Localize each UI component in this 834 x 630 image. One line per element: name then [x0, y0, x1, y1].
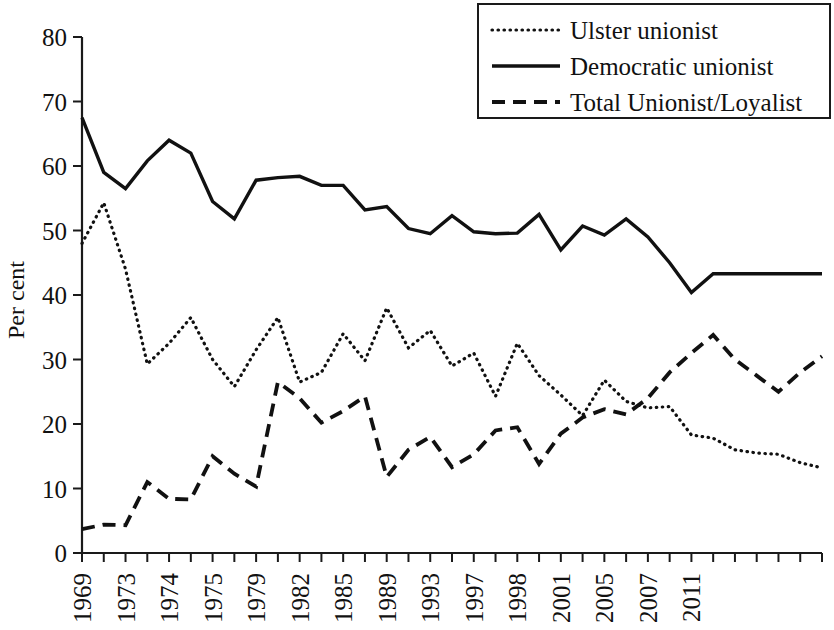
x-tick-label: 1982: [287, 573, 314, 623]
x-tick-label: 2011: [678, 573, 705, 622]
x-tick-label: 1973: [113, 573, 140, 623]
legend-label: Total Unionist/Loyalist: [570, 89, 802, 116]
x-tick-label: 1993: [417, 573, 444, 623]
x-tick-label: 1974: [156, 573, 183, 624]
y-tick-label: 70: [42, 89, 67, 116]
y-tick-label: 40: [42, 282, 67, 309]
y-tick-label: 80: [42, 24, 67, 51]
x-tick-label: 1985: [330, 573, 357, 623]
y-tick-label: 0: [55, 540, 68, 567]
x-tick-label: 1998: [504, 573, 531, 623]
x-tick-label: 2001: [548, 573, 575, 623]
line-chart: 01020304050607080Per cent196919731974197…: [0, 0, 834, 630]
x-tick-label: 1969: [69, 573, 96, 623]
y-axis-title: Per cent: [3, 261, 29, 339]
chart-container: 01020304050607080Per cent196919731974197…: [0, 0, 834, 630]
x-tick-label: 1979: [243, 573, 270, 623]
x-tick-label: 1989: [374, 573, 401, 623]
x-tick-label: 2007: [635, 573, 662, 623]
y-tick-label: 60: [42, 153, 67, 180]
series-line-dashed: [82, 335, 822, 529]
y-tick-label: 30: [42, 347, 67, 374]
y-tick-label: 20: [42, 411, 67, 438]
y-tick-label: 10: [42, 476, 67, 503]
y-tick-label: 50: [42, 218, 67, 245]
x-tick-label: 1975: [200, 573, 227, 623]
series-line-solid: [82, 118, 822, 293]
x-tick-label: 2005: [591, 573, 618, 623]
x-tick-label: 1997: [461, 573, 488, 623]
legend-label: Democratic unionist: [570, 53, 773, 80]
legend-label: Ulster unionist: [570, 17, 718, 44]
